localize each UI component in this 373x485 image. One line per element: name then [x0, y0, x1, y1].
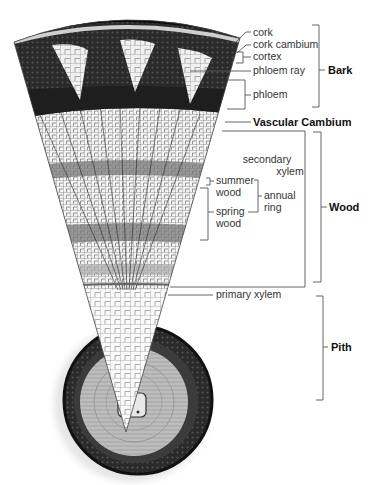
label-primary-xylem: primary xylem — [216, 288, 282, 300]
label-secondary-xylem-line1: secondary — [243, 153, 292, 165]
label-phloem-ray: phloem ray — [253, 64, 306, 76]
group-label-bark: Bark — [328, 64, 353, 76]
label-cork-cambium: cork cambium — [253, 38, 319, 50]
label-cortex: cortex — [253, 50, 282, 62]
label-summer-wood-line1: summer — [216, 174, 254, 186]
group-label-pith: Pith — [331, 341, 352, 353]
stem-cross-section-diagram: cork cork cambium cortex phloem ray phlo… — [0, 0, 373, 485]
label-annual-ring-line2: ring — [264, 201, 282, 213]
label-phloem: phloem — [253, 88, 288, 100]
label-spring-wood-line2: wood — [215, 217, 241, 229]
label-secondary-xylem-line2: xylem — [276, 165, 304, 177]
label-summer-wood-line2: wood — [215, 186, 241, 198]
label-cork: cork — [253, 26, 274, 38]
group-label-wood: Wood — [329, 201, 359, 213]
label-vascular-cambium: Vascular Cambium — [253, 116, 352, 128]
label-annual-ring-line1: annual — [264, 189, 296, 201]
label-spring-wood-line1: spring — [216, 205, 245, 217]
